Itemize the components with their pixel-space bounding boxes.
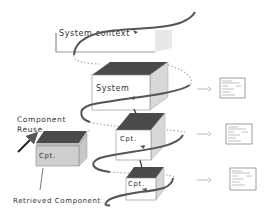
component-reuse-label-2: Reuse — [17, 125, 43, 134]
component-reuse-diagram: System context System Cpt. Cpt. — [0, 0, 270, 219]
cpt-retrieved-label: Cpt. — [39, 152, 56, 160]
retrieved-component-box — [36, 131, 87, 166]
doc-arrow-2 — [197, 132, 211, 136]
system-label: System — [96, 84, 129, 93]
doc-arrow-1 — [197, 87, 211, 91]
retrieved-component-label: Retrieved Component — [13, 197, 101, 205]
cpt-low-label: Cpt. — [128, 180, 145, 188]
doc-arrow-3 — [197, 178, 211, 182]
component-spec-doc-2-icon — [230, 168, 256, 190]
spiral-dotted-1 — [74, 55, 100, 64]
retrieved-pointer-line — [40, 168, 43, 190]
component-spec-doc-1-icon — [226, 124, 252, 144]
component-reuse-label-1: Component — [17, 115, 66, 124]
cpt-mid-label: Cpt. — [120, 135, 137, 143]
component-reuse-arrow — [18, 136, 34, 152]
system-spec-doc-icon — [220, 78, 245, 98]
